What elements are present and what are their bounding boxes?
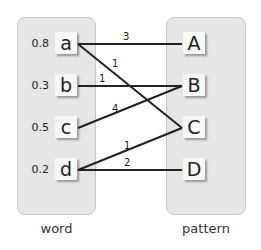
node-C: C	[183, 116, 205, 138]
pattern-group-label: pattern	[166, 221, 246, 236]
edge-label-d-C: 1	[124, 140, 130, 151]
edge-label-c-B: 4	[112, 103, 118, 114]
edge-label-b-B: 1	[99, 73, 105, 84]
weight-b: 0.3	[21, 79, 49, 92]
node-D: D	[183, 158, 205, 180]
edge-label-d-D: 2	[124, 157, 130, 168]
weight-a: 0.8	[21, 37, 49, 50]
edge-label-a-A: 3	[123, 31, 129, 42]
node-d: d	[55, 158, 77, 180]
word-group-label: word	[17, 221, 96, 236]
weight-d: 0.2	[21, 163, 49, 176]
node-B: B	[183, 74, 205, 96]
node-c: c	[55, 116, 77, 138]
node-b: b	[55, 74, 77, 96]
node-a: a	[55, 32, 77, 54]
edge-label-a-C: 1	[112, 58, 118, 69]
weight-c: 0.5	[21, 121, 49, 134]
edge-c-B	[78, 86, 182, 128]
node-A: A	[183, 32, 205, 54]
